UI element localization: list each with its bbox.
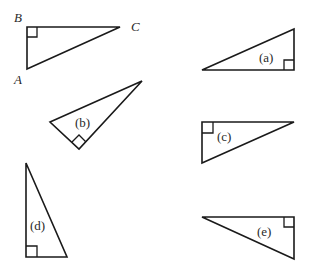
vertex-label-b: B (14, 10, 22, 25)
vertex-label-c: C (131, 19, 140, 34)
reference-triangle-abc: B A C (13, 10, 140, 87)
triangle-c: (c) (202, 122, 294, 163)
vertex-label-a: A (13, 72, 22, 87)
diagram-svg: B A C (a) (b) (c) (d) (0, 0, 309, 276)
triangle-b-outline (50, 81, 142, 149)
triangle-e-outline (202, 217, 294, 259)
triangle-label-c: (c) (217, 129, 231, 144)
triangle-d: (d) (26, 163, 67, 257)
triangle-label-d: (d) (30, 218, 45, 233)
triangle-a-outline (202, 29, 294, 70)
triangle-label-a: (a) (259, 50, 273, 65)
triangle-label-e: (e) (257, 224, 271, 239)
triangle-c-outline (202, 122, 294, 163)
triangle-e: (e) (202, 217, 294, 259)
triangle-b: (b) (50, 81, 142, 149)
triangle-abc-outline (27, 27, 120, 69)
right-angle-marker-e (284, 217, 294, 227)
right-angle-marker-c (202, 122, 213, 133)
right-angle-marker-b-tri (72, 135, 86, 142)
triangle-d-outline (26, 163, 67, 257)
right-angle-marker-a (284, 60, 294, 70)
triangle-diagram: B A C (a) (b) (c) (d) (0, 0, 309, 276)
triangle-label-b: (b) (75, 115, 90, 130)
right-angle-marker-b (27, 27, 37, 37)
right-angle-marker-d (26, 246, 37, 257)
triangle-a: (a) (202, 29, 294, 70)
